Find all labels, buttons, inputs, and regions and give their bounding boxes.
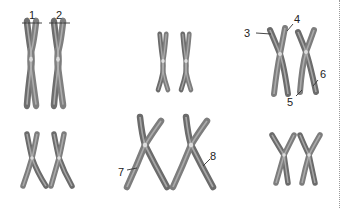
label-6: 6: [320, 68, 326, 80]
chromosome: [181, 34, 191, 89]
chromosome-7: [127, 117, 167, 187]
chromosome: [23, 134, 46, 186]
chromosome-diagram: 1 2 3 4 5 6: [0, 0, 346, 208]
label-3: 3: [244, 27, 250, 39]
chromosome-1: [27, 22, 36, 104]
panel-top-middle: [158, 34, 191, 89]
chromosome: [298, 30, 316, 92]
label-8: 8: [210, 150, 216, 162]
panel-top-left: 1 2: [22, 9, 70, 105]
chromosome: [158, 34, 168, 89]
label-4: 4: [294, 13, 300, 25]
panel-bottom-right: [272, 135, 320, 183]
panel-top-right: 3 4 5 6: [244, 13, 326, 108]
label-1: 1: [29, 9, 35, 21]
chromosome: [272, 135, 294, 183]
chromosome: [270, 28, 288, 94]
chromosome-2: [54, 22, 63, 104]
panel-bottom-left: [23, 134, 72, 186]
chromosome: [300, 135, 320, 183]
label-5: 5: [287, 96, 293, 108]
label-8-leader: [203, 159, 210, 166]
panel-bottom-middle: 7 8: [118, 117, 216, 187]
chromosome-8: [173, 117, 213, 187]
label-7: 7: [118, 166, 124, 178]
label-2: 2: [56, 9, 62, 21]
dotted-divider: [339, 0, 340, 208]
chromosome: [51, 134, 72, 186]
